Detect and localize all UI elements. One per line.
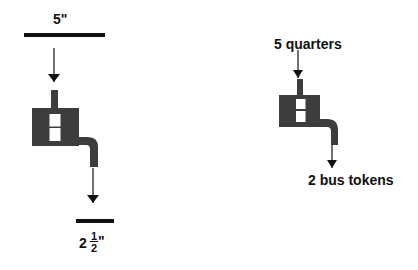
right-input-label: 5 quarters — [274, 36, 342, 52]
left-output-numerator: 1 — [90, 231, 98, 242]
right-output-label: 2 bus tokens — [308, 172, 394, 188]
left-machine-neck — [51, 90, 58, 109]
left-output-unit: " — [98, 233, 105, 249]
diagram-canvas — [0, 0, 418, 270]
right-output-arrowhead-icon — [327, 160, 337, 168]
left-input-label: 5" — [53, 11, 67, 27]
left-output-label: 2 1 2 " — [79, 230, 119, 256]
left-machine-window-top — [50, 114, 61, 127]
right-machine — [279, 50, 338, 168]
left-machine-window-bottom — [50, 128, 61, 141]
left-input-arrowhead-icon — [48, 74, 60, 82]
right-input-arrowhead-icon — [293, 70, 303, 78]
right-machine-spout — [320, 119, 338, 145]
left-machine-spout — [78, 137, 98, 167]
right-machine-neck — [297, 79, 303, 96]
right-machine-window-top — [296, 99, 306, 109]
left-machine — [24, 33, 114, 223]
left-output-arrowhead-icon — [87, 195, 99, 203]
left-output-denominator: 2 — [90, 243, 98, 253]
right-machine-window-bottom — [296, 111, 306, 122]
left-output-length-bar — [76, 219, 114, 223]
left-input-length-bar — [24, 33, 105, 37]
left-output-whole: 2 — [79, 235, 87, 251]
